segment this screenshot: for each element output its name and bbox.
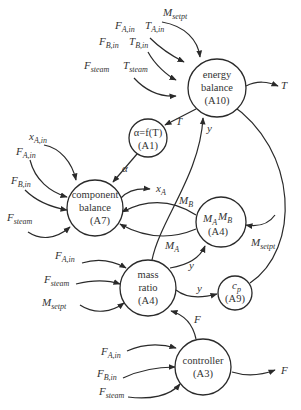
alpha-id: (A1) — [138, 140, 158, 152]
mass-ratio-line2: ratio — [138, 282, 157, 293]
node-component-balance: component balance (A7) — [67, 180, 123, 236]
edge-msetpt-to-eb — [162, 22, 200, 57]
mamb-id: (A4) — [208, 226, 228, 238]
edge-fain-to-cb — [30, 160, 67, 197]
node-controller: controller (A3) — [175, 339, 231, 395]
label-mr-y-cp: y — [196, 282, 202, 294]
label-eb-to-alpha-T: T — [176, 115, 183, 127]
label-cb-xain: xA,in — [28, 130, 47, 145]
label-mr-fain: FA,in — [54, 249, 75, 264]
mass-ratio-id: (A4) — [138, 295, 158, 307]
edge-xain-to-cb — [44, 145, 76, 180]
edge-ctrl-F-to-mr — [171, 311, 196, 339]
label-ctrl-fsteam: Fsteam — [98, 385, 125, 400]
label-mr-y-up: y — [188, 259, 194, 271]
edge-eb-T-out — [246, 82, 278, 86]
node-mamb: MAMB (A4) — [196, 197, 246, 247]
cp-id: (A9) — [225, 293, 245, 305]
edge-fbin-to-ctrl — [123, 367, 175, 378]
node-energy-balance: energy balance (A10) — [188, 59, 246, 117]
process-diagram: energy balance (A10) α=f(T) (A1) compone… — [0, 0, 301, 410]
label-ctrl-F-out: F — [280, 364, 288, 376]
edge-ma-to-cb — [120, 224, 196, 236]
edge-msetpt-to-mamb — [246, 215, 275, 226]
edge-fsteam-to-mr — [76, 281, 120, 284]
edge-fbin-to-cb — [25, 190, 67, 210]
label-ctrl-fain: FA,in — [100, 345, 121, 360]
label-mr-msetpt: Msetpt — [41, 296, 67, 311]
component-balance-line2: balance — [79, 202, 111, 213]
edge-fain-to-mr — [82, 260, 126, 268]
controller-line1: controller — [183, 355, 224, 366]
controller-id: (A3) — [193, 368, 213, 380]
label-eb-ta: TA,in — [145, 19, 164, 34]
label-eb-fb: FB,in — [98, 35, 119, 50]
energy-balance-line1: energy — [203, 69, 232, 80]
label-cb-fbin: FB,in — [10, 174, 31, 189]
label-mr-fsteam: Fsteam — [43, 273, 70, 288]
label-y-to-eb: y — [206, 122, 212, 134]
label-eb-tsteam: Tsteam — [123, 59, 148, 74]
edge-ftb-to-eb — [148, 52, 176, 80]
energy-balance-line2: balance — [201, 82, 233, 93]
edge-fain-to-ctrl — [127, 345, 176, 351]
edge-msetpt-to-mr — [80, 303, 124, 311]
label-mamb-msetpt: Msetpt — [250, 236, 276, 251]
label-ctrl-F-up: F — [193, 313, 201, 325]
label-eb-T-out: T — [281, 79, 288, 91]
label-alpha: α — [122, 162, 128, 174]
edges — [25, 22, 285, 398]
mass-ratio-line1: mass — [138, 269, 159, 280]
edge-fsteam-to-ctrl — [128, 384, 180, 398]
label-eb-msetpt: Msetpt — [162, 6, 188, 21]
label-cb-xa-out: xA — [155, 182, 166, 197]
edge-cp-to-eb — [229, 103, 285, 283]
alpha-line1: α=f(T) — [134, 127, 163, 139]
node-cp: cp (A9) — [218, 276, 252, 310]
node-alpha: α=f(T) (A1) — [129, 119, 167, 157]
label-eb-fa: FA,in — [114, 19, 135, 34]
label-cb-fsteam: Fsteam — [6, 211, 33, 226]
edge-fsteam-to-eb — [134, 78, 176, 96]
label-eb-tb: TB,in — [129, 35, 148, 50]
label-ma: MA — [164, 239, 179, 254]
component-balance-id: (A7) — [90, 215, 110, 227]
edge-fsteam-to-cb — [28, 227, 70, 237]
energy-balance-id: (A10) — [204, 95, 230, 107]
label-eb-fsteam: Fsteam — [83, 59, 110, 74]
label-ctrl-fbin: FB,in — [96, 367, 117, 382]
component-balance-line1: component — [72, 189, 119, 200]
label-cb-fain: FA,in — [15, 145, 36, 160]
edge-ctrl-F-out — [232, 370, 275, 375]
edge-fta-to-eb — [150, 38, 184, 62]
node-mass-ratio: mass ratio (A4) — [120, 260, 176, 316]
edge-cb-xa-out — [121, 189, 150, 198]
